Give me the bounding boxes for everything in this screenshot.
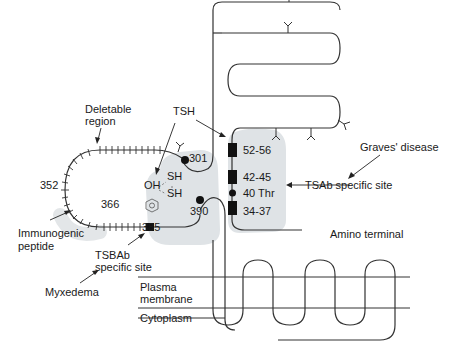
sh-label-1: SH [167,170,182,183]
site-301-dot [181,156,189,164]
site-390-label: 390 [190,205,208,218]
site-52-56-block [228,143,237,157]
tsh-label: TSH [173,105,195,118]
site-40-dot [229,190,236,197]
immunogenic-label-2: peptide [18,240,54,253]
site-385-label: 385 [142,221,160,234]
amino-terminal-label: Amino terminal [330,228,403,241]
site-301-label: 301 [189,152,207,165]
site-34-37-block [228,201,237,215]
sh-label-2: SH [167,187,182,200]
myxedema-label: Myxedema [45,286,99,299]
site-390-dot [196,196,204,204]
site-40-thr-label: 40 Thr [243,187,275,200]
site-352-label: 352 [40,179,58,192]
transmembrane-serpentine [213,240,395,340]
graves-disease-label: Graves' disease [360,141,439,154]
site-42-45-label: 42-45 [243,171,271,184]
site-42-45-block [228,170,237,184]
diagram-graphics [0,0,451,355]
site-366-label: 366 [101,198,119,211]
deletable-region-label-2: region [85,115,116,128]
oh-label: OH [144,179,161,192]
cytoplasm-label: Cytoplasm [140,312,192,325]
tsbab-label-2: specific site [95,261,152,274]
immunogenic-label-1: Immunogenic [18,227,84,240]
tsh-receptor-diagram: Deletable region TSH 301 SH SH OH 352 36… [0,0,451,355]
tsab-specific-site-label: TSAb specific site [305,179,392,192]
site-34-37-label: 34-37 [243,205,271,218]
site-52-56-label: 52-56 [243,144,271,157]
plasma-membrane-label-2: membrane [140,293,193,306]
